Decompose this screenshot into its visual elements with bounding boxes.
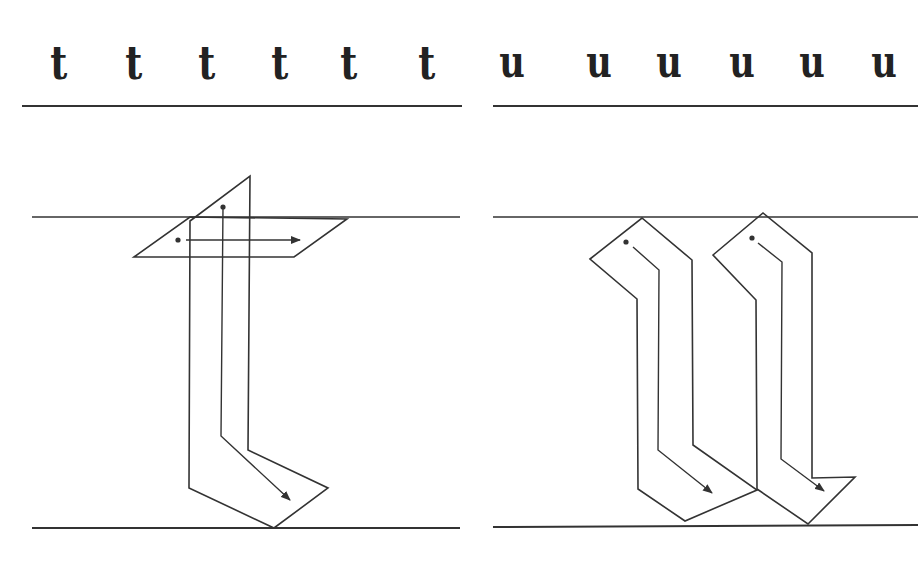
t-stem-outline bbox=[189, 176, 328, 528]
t-crossbar-outline bbox=[134, 217, 347, 257]
guide-lines bbox=[22, 106, 918, 528]
baseline-right bbox=[493, 525, 918, 527]
stroke-start-dot bbox=[175, 237, 180, 242]
stroke-start-dot bbox=[749, 235, 754, 240]
u-stroke-outline-2 bbox=[713, 213, 855, 524]
stroke-direction-arrow bbox=[221, 207, 290, 500]
letter-u-construction bbox=[590, 213, 855, 524]
stroke-start-dot bbox=[623, 239, 628, 244]
stroke-direction-arrow bbox=[758, 243, 824, 491]
u-stroke-outline-1 bbox=[590, 218, 757, 521]
letter-t-construction bbox=[134, 176, 347, 528]
stroke-direction-arrow bbox=[633, 247, 712, 493]
stroke-construction-diagram bbox=[0, 0, 918, 573]
